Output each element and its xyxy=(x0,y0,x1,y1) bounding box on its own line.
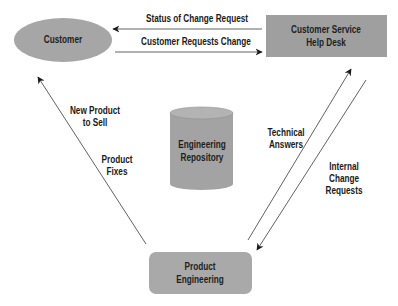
internal-change-requests-line2: Change xyxy=(319,173,368,185)
repository-label-line2: Repository xyxy=(172,151,231,164)
product-engineering-label: Product Engineering xyxy=(167,260,233,286)
technical-answers-line2: Answers xyxy=(261,139,310,151)
product-engineering-label-line1: Product xyxy=(167,260,233,273)
new-product-to-sell-line2: to Sell xyxy=(66,117,123,129)
product-fixes-label: Product Fixes xyxy=(97,154,138,178)
help-desk-label-line1: Customer Service xyxy=(285,23,367,36)
help-desk-label-line2: Help Desk xyxy=(285,36,367,49)
new-product-to-sell-line1: New Product xyxy=(66,105,123,117)
repository-label: Engineering Repository xyxy=(172,138,231,164)
status-of-change-request-label: Status of Change Request xyxy=(140,13,255,25)
internal-change-requests-line3: Requests xyxy=(319,185,368,197)
technical-answers-line1: Technical xyxy=(261,127,310,139)
customer-label: Customer xyxy=(30,33,96,46)
product-engineering-label-line2: Engineering xyxy=(167,273,233,286)
new-product-to-sell-label: New Product to Sell xyxy=(66,105,123,129)
repository-label-line1: Engineering xyxy=(172,138,231,151)
internal-change-requests-label: Internal Change Requests xyxy=(319,161,368,197)
customer-requests-change-label: Customer Requests Change xyxy=(138,36,254,48)
technical-answers-arrow xyxy=(248,69,351,240)
help-desk-label: Customer Service Help Desk xyxy=(285,23,367,49)
technical-answers-label: Technical Answers xyxy=(261,127,310,151)
product-fixes-line1: Product xyxy=(97,154,138,166)
product-fixes-line2: Fixes xyxy=(97,166,138,178)
internal-change-requests-line1: Internal xyxy=(319,161,368,173)
